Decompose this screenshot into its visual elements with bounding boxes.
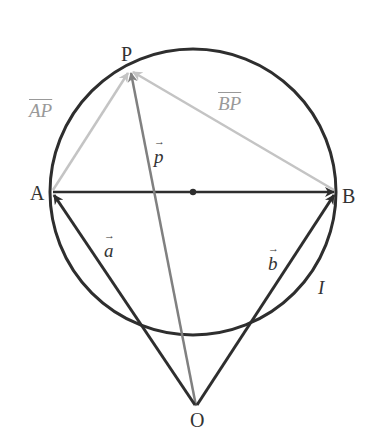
circle-label-I: I	[318, 278, 324, 297]
vector-BP	[133, 72, 334, 190]
vector-label-b: b	[268, 254, 278, 273]
vector-a	[54, 195, 195, 405]
point-label-A: A	[30, 183, 44, 203]
vector-label-a: a	[104, 241, 114, 260]
point-label-O: O	[190, 410, 204, 430]
point-label-B: B	[342, 186, 355, 206]
vector-label-b-text: b	[268, 254, 278, 273]
vector-b	[197, 195, 334, 405]
vector-label-a-text: a	[104, 241, 114, 260]
vector-label-BP: BP	[218, 94, 241, 113]
vector-label-AP: AP	[29, 101, 52, 120]
point-label-P: P	[121, 44, 132, 64]
vector-label-p-text: p	[154, 147, 164, 166]
diagram-canvas	[0, 0, 381, 447]
vector-label-p: p	[154, 147, 164, 166]
center-point	[190, 189, 196, 195]
